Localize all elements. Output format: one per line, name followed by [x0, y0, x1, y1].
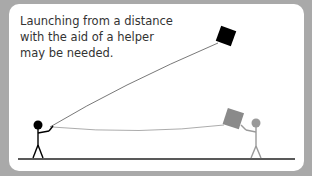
kite-string-held	[52, 125, 224, 131]
held-kite-icon	[223, 108, 244, 129]
kite-string-flying	[50, 43, 218, 127]
helper-figure-icon	[241, 119, 261, 159]
flying-kite-icon	[216, 26, 237, 47]
flyer-figure-icon	[33, 121, 53, 159]
kite-launch-illustration	[0, 0, 312, 176]
